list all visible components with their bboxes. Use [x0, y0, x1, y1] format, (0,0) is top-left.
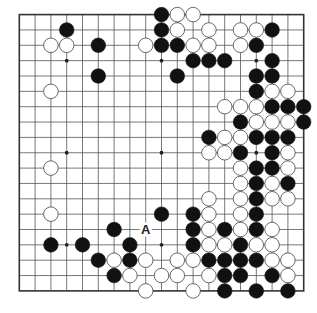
black-stone [75, 238, 90, 253]
black-stone [249, 253, 264, 268]
white-stone [138, 284, 153, 299]
black-stone [249, 130, 264, 145]
black-stone [91, 253, 106, 268]
black-stone [154, 207, 169, 222]
black-stone [217, 53, 232, 68]
white-stone [202, 238, 217, 253]
black-stone [202, 130, 217, 145]
white-stone [281, 84, 296, 99]
star-point [254, 151, 258, 155]
black-stone [186, 222, 201, 237]
point-label: A [141, 222, 151, 237]
black-stone [107, 268, 122, 283]
star-point [160, 243, 164, 247]
black-stone [123, 253, 138, 268]
black-stone [249, 222, 264, 237]
white-stone [202, 145, 217, 160]
white-stone [154, 268, 169, 283]
white-stone [233, 99, 248, 114]
black-stone [202, 253, 217, 268]
white-stone [233, 222, 248, 237]
black-stone [281, 176, 296, 191]
black-stone [170, 38, 185, 53]
black-stone [154, 23, 169, 38]
white-stone [217, 99, 232, 114]
black-stone [265, 69, 280, 84]
black-stone [233, 145, 248, 160]
black-stone [91, 38, 106, 53]
white-stone [249, 238, 264, 253]
black-stone [233, 115, 248, 130]
white-stone [265, 176, 280, 191]
black-stone [265, 53, 280, 68]
black-stone [59, 23, 74, 38]
star-point [160, 151, 164, 155]
white-stone [281, 145, 296, 160]
black-stone [107, 222, 122, 237]
black-stone [44, 238, 59, 253]
black-stone [186, 207, 201, 222]
white-stone [202, 207, 217, 222]
black-stone [296, 99, 311, 114]
white-stone [281, 115, 296, 130]
white-stone [217, 238, 232, 253]
white-stone [186, 7, 201, 22]
black-stone [249, 207, 264, 222]
black-stone [265, 130, 280, 145]
white-stone [265, 84, 280, 99]
black-stone [265, 145, 280, 160]
white-stone [233, 130, 248, 145]
white-stone [249, 23, 264, 38]
black-stone [265, 161, 280, 176]
black-stone [233, 238, 248, 253]
black-stone [233, 268, 248, 283]
white-stone [170, 253, 185, 268]
black-stone [249, 69, 264, 84]
black-stone [265, 23, 280, 38]
white-stone [249, 99, 264, 114]
black-stone [249, 284, 264, 299]
star-point [65, 151, 69, 155]
white-stone [233, 38, 248, 53]
black-stone [265, 99, 280, 114]
black-stone [123, 238, 138, 253]
black-stone [186, 238, 201, 253]
labels-layer: A [140, 222, 152, 237]
white-stone [123, 268, 138, 283]
white-stone [59, 38, 74, 53]
white-stone [265, 238, 280, 253]
black-stone [281, 284, 296, 299]
black-stone [249, 161, 264, 176]
black-stone [249, 176, 264, 191]
star-point [65, 59, 69, 63]
white-stone [265, 222, 280, 237]
white-stone [265, 253, 280, 268]
black-stone [217, 222, 232, 237]
white-stone [44, 161, 59, 176]
black-stone [170, 69, 185, 84]
white-stone [202, 268, 217, 283]
white-stone [138, 253, 153, 268]
black-stone [217, 268, 232, 283]
star-point [254, 59, 258, 63]
white-stone [265, 192, 280, 207]
white-stone [249, 115, 264, 130]
white-stone [233, 23, 248, 38]
white-stone [202, 23, 217, 38]
white-stone [233, 207, 248, 222]
black-stone [154, 38, 169, 53]
black-stone [217, 284, 232, 299]
black-stone [154, 7, 169, 22]
white-stone [233, 161, 248, 176]
white-stone [138, 38, 153, 53]
white-stone [217, 130, 232, 145]
white-stone [281, 253, 296, 268]
white-stone [281, 192, 296, 207]
black-stone [186, 53, 201, 68]
white-stone [170, 23, 185, 38]
black-stone [91, 69, 106, 84]
star-point [160, 59, 164, 63]
white-stone [217, 145, 232, 160]
black-stone [217, 253, 232, 268]
white-stone [170, 268, 185, 283]
